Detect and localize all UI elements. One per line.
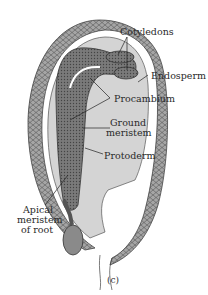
label-protoderm: Protoderm (104, 151, 155, 161)
label-endosperm: Endosperm (151, 71, 206, 81)
label-procambium: Procambium (114, 94, 175, 104)
root-apical-meristem (63, 225, 83, 255)
label-ground-meristem-2: meristem (106, 128, 152, 138)
seed-diagram (0, 0, 208, 295)
figure-caption: (c) (107, 275, 119, 285)
cotyledon-upper (106, 51, 134, 63)
label-cotyledons: Cotyledons (120, 27, 174, 37)
label-apical-3: of root (21, 225, 53, 235)
cotyledon-lower (114, 67, 138, 79)
